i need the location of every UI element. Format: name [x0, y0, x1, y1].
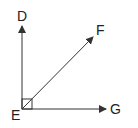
- label-e: E: [11, 107, 20, 123]
- label-g: G: [110, 101, 121, 117]
- ray-ef: [22, 37, 93, 109]
- label-d: D: [17, 8, 27, 24]
- label-f: F: [96, 22, 105, 38]
- angle-diagram: D F G E: [0, 0, 138, 128]
